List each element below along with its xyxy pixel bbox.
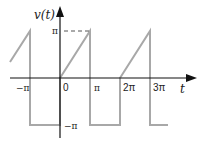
level-label-top: π <box>52 26 58 36</box>
tick-label-zero: 0 <box>63 82 69 93</box>
tick-label-2pi: 2π <box>123 82 136 93</box>
v-axis-arrow-icon <box>56 6 64 17</box>
tick-label-pi: π <box>94 83 100 93</box>
tick-label-neg-pi: −π <box>16 83 30 93</box>
tick-label-3pi: 3π <box>153 82 166 93</box>
x-axis-label: t <box>180 82 185 96</box>
level-label-bottom: −π <box>64 121 78 131</box>
t-axis-arrow-icon <box>186 74 197 82</box>
y-axis-label: v(t) <box>34 8 55 22</box>
waveform-diagram: v(t) t π −π −π 0 π 2π 3π <box>0 0 208 147</box>
